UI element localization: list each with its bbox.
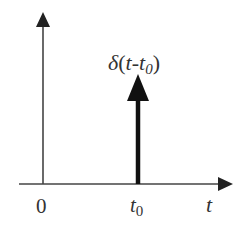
x-axis-arrowhead-icon [218, 177, 233, 191]
impulse-label: δ(t-t0) [108, 50, 160, 77]
t0-tick-label: t0 [130, 193, 143, 219]
y-axis-arrowhead-icon [36, 12, 50, 27]
x-axis-label: t [206, 192, 213, 217]
unit-impulse-diagram: δ(t-t0) 0 t0 t [0, 0, 248, 229]
impulse-arrowhead-icon [127, 74, 149, 101]
origin-tick-label: 0 [36, 194, 47, 218]
